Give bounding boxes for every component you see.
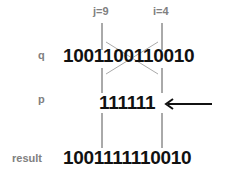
p-bits: 111111 [99, 92, 155, 114]
j-index-label: j=9 [93, 5, 109, 17]
p-row-label: p [38, 93, 45, 105]
result-bits: 1001111110010 [63, 147, 191, 169]
q-row-label: q [38, 49, 45, 61]
q-bits: 1001100110010 [63, 45, 194, 67]
i-index-label: i=4 [153, 5, 169, 17]
result-row-label: result [12, 152, 42, 164]
